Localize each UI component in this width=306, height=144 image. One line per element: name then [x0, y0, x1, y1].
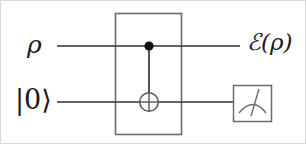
- cnot-target-icon: [140, 93, 159, 112]
- cnot-control-dot: [144, 41, 153, 50]
- measurement-meter-icon: [234, 86, 272, 122]
- input-label-ket-zero: |0⟩: [15, 86, 52, 113]
- input-label-rho: ρ: [27, 32, 42, 57]
- output-label-channel-rho: ℰ(ρ): [247, 31, 292, 54]
- quantum-circuit-figure: ρ |0⟩ ℰ(ρ): [0, 0, 306, 144]
- circuit-canvas: [1, 1, 306, 144]
